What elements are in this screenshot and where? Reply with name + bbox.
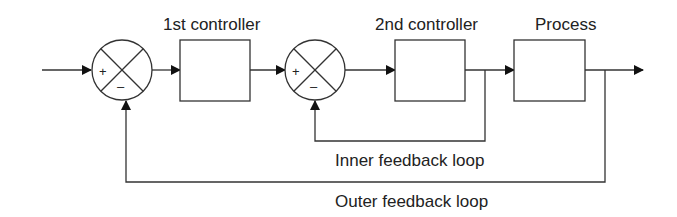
second-controller-label: 2nd controller: [375, 16, 478, 33]
process-block: [514, 40, 585, 101]
cascade-control-diagram: 1st controller 2nd controller Process + …: [0, 0, 677, 217]
first-controller-label: 1st controller: [163, 16, 260, 33]
first-controller-block: [180, 40, 250, 101]
process-label: Process: [535, 16, 596, 33]
outer-feedback-loop-label: Outer feedback loop: [335, 193, 488, 210]
second-controller-block: [395, 40, 465, 101]
sum2-plus-sign: +: [292, 65, 300, 78]
inner-feedback-loop-label: Inner feedback loop: [335, 152, 484, 169]
sum2-minus-sign: –: [310, 80, 317, 93]
sum1-minus-sign: –: [117, 80, 124, 93]
sum1-plus-sign: +: [99, 65, 107, 78]
